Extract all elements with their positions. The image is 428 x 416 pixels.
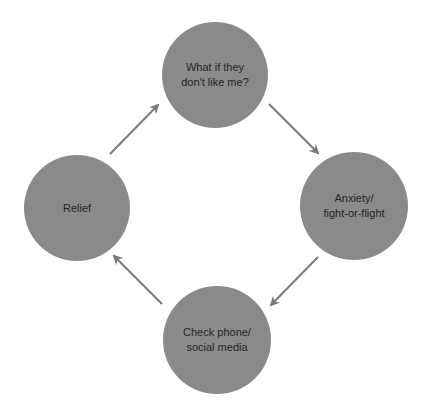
node-what-if-they-dont-like-me: What if they don't like me? [162,22,268,128]
node-label: Anxiety/ fight-or-flight [323,191,384,221]
arrow-relief-to-whatif [110,105,158,154]
node-label: Check phone/ social media [183,325,251,355]
cycle-diagram: What if they don't like me? Anxiety/ fig… [0,0,428,416]
arrow-check-phone-to-relief [114,256,162,304]
node-relief: Relief [24,155,130,261]
node-label: What if they don't like me? [181,60,249,90]
arrow-anxiety-to-check-phone [271,257,318,305]
node-label: Relief [63,201,91,216]
node-check-phone-social-media: Check phone/ social media [163,286,271,394]
arrow-whatif-to-anxiety [269,104,318,153]
node-anxiety-fight-or-flight: Anxiety/ fight-or-flight [300,152,408,260]
